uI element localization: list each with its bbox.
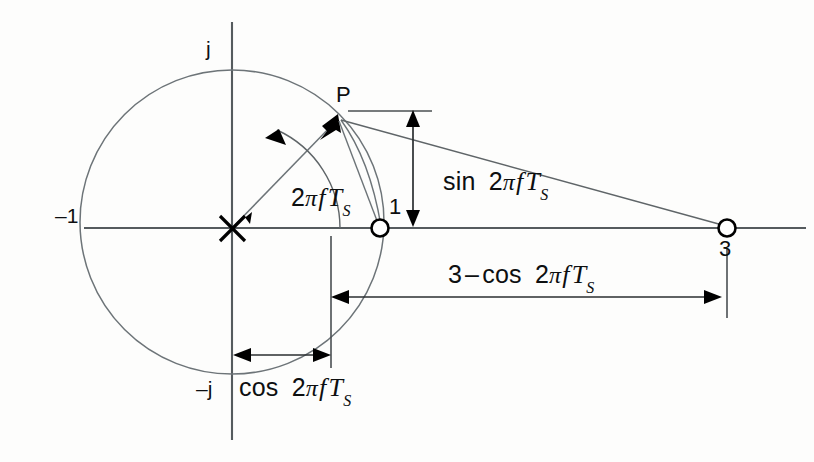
- angle-prefix: 2: [291, 183, 305, 211]
- dimension-three-minus-cos: [331, 290, 722, 304]
- three-minus-cos-T-subscript: S: [586, 279, 594, 296]
- angle-f-symbol: f: [317, 183, 326, 212]
- angle-arc-arrowhead: [265, 129, 286, 145]
- sin-T-symbol: T: [525, 167, 542, 196]
- label-point-p: P: [336, 84, 351, 106]
- cos-function-name: cos: [239, 373, 279, 401]
- three-minus-cos-minus-sign: –: [462, 260, 482, 288]
- three-minus-cos-pi-symbol: π: [549, 262, 561, 288]
- three-minus-cos-T-symbol: T: [571, 260, 588, 289]
- dimension-sin: [406, 110, 420, 227]
- cos-pi-symbol: π: [306, 375, 318, 401]
- diagram-canvas: [0, 0, 814, 462]
- three-minus-cos-prefix: 2: [535, 260, 549, 288]
- angle-pi-symbol: π: [305, 185, 317, 211]
- label-real-negative-one: –1: [55, 205, 78, 226]
- label-cos-expression: cos 2πfTS: [239, 375, 352, 405]
- label-imaginary-positive: j: [206, 38, 211, 59]
- label-sin-expression: sin 2πfTS: [443, 169, 549, 199]
- label-three-minus-cos-expression: 3–cos 2πfTS: [448, 262, 596, 292]
- cos-T-symbol: T: [327, 373, 344, 402]
- three-minus-cos-f-symbol: f: [561, 260, 570, 289]
- label-point-three: 3: [719, 238, 731, 260]
- label-imaginary-negative: –j: [196, 378, 212, 399]
- phasor-diagram-figure: j –j –1 P 1 3 2πfTS sin 2πfTS cos 2πfTS …: [0, 0, 814, 462]
- cos-prefix: 2: [292, 373, 306, 401]
- label-angle-expression: 2πfTS: [291, 185, 352, 215]
- sin-f-symbol: f: [515, 167, 524, 196]
- three-minus-cos-lead: 3: [448, 260, 462, 288]
- label-point-one: 1: [389, 196, 401, 218]
- sin-function-name: sin: [443, 167, 476, 195]
- point-marker-one: [372, 220, 389, 237]
- sin-T-subscript: S: [540, 186, 548, 203]
- sin-pi-symbol: π: [503, 169, 515, 195]
- angle-T-subscript: S: [342, 202, 350, 219]
- cos-T-subscript: S: [343, 392, 351, 409]
- angle-T-symbol: T: [327, 183, 344, 212]
- dimension-cos: [233, 348, 331, 362]
- point-marker-three: [719, 220, 736, 237]
- radius-vector-arrowhead: [320, 114, 341, 140]
- three-minus-cos-function-name: cos: [482, 260, 522, 288]
- sin-prefix: 2: [489, 167, 503, 195]
